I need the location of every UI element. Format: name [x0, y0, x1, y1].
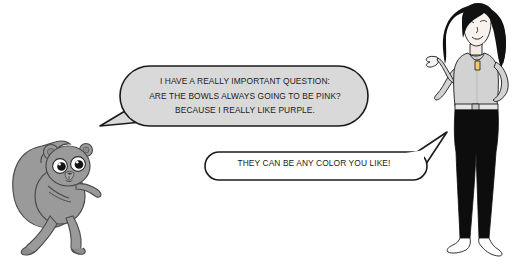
- bubble-woman: [0, 0, 531, 268]
- bubble-woman-body: [205, 152, 427, 180]
- comic-panel: I HAVE A REALLY IMPORTANT QUESTION: ARE …: [0, 0, 531, 268]
